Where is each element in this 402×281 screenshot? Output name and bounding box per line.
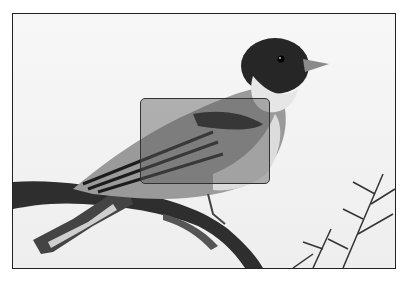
photo-frame <box>12 13 396 269</box>
highlight-overlay[interactable] <box>140 98 270 184</box>
